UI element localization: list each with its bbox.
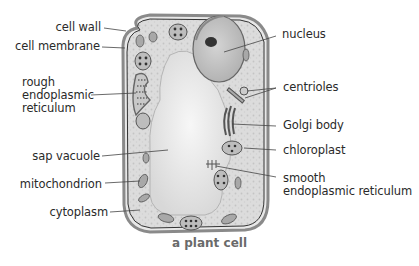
- label-mitochondrion: mitochondrion: [0, 178, 102, 191]
- label-smooth-er-line2: endoplasmic reticulum: [283, 185, 412, 198]
- label-cell-membrane: cell membrane: [0, 40, 100, 53]
- nucleus-shape: [193, 16, 245, 82]
- label-golgi-body: Golgi body: [283, 119, 344, 132]
- label-cell-wall: cell wall: [0, 21, 101, 34]
- label-rough-er-line3: reticulum: [22, 102, 76, 115]
- label-nucleus: nucleus: [282, 28, 326, 41]
- plant-cell-diagram: cell wall cell membrane rough endoplasmi…: [0, 0, 419, 266]
- label-centrioles: centrioles: [283, 81, 338, 94]
- nucleolus-shape: [205, 37, 217, 47]
- label-chloroplast: chloroplast: [283, 144, 345, 157]
- label-cytoplasm: cytoplasm: [0, 206, 108, 219]
- diagram-caption: a plant cell: [0, 236, 419, 250]
- centriole-shape: [240, 87, 248, 95]
- label-sap-vacuole: sap vacuole: [0, 150, 100, 163]
